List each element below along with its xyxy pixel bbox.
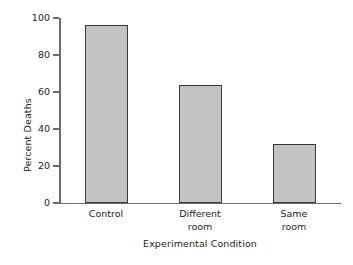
y-axis-tick-label: 20 bbox=[16, 161, 50, 171]
y-axis-tick-label: 80 bbox=[16, 50, 50, 60]
x-axis-title: Experimental Condition bbox=[59, 238, 341, 249]
bar bbox=[273, 144, 316, 203]
y-axis-tick-label: 0 bbox=[16, 198, 50, 208]
x-axis-category-label: Same room bbox=[247, 208, 341, 233]
x-axis-category-label: Different room bbox=[153, 208, 247, 233]
bar-chart: Percent Deaths 020406080100 ControlDiffe… bbox=[0, 0, 353, 265]
y-axis-tick-label: 40 bbox=[16, 124, 50, 134]
plot-area bbox=[59, 18, 341, 203]
y-axis-tick-label: 60 bbox=[16, 87, 50, 97]
bar bbox=[85, 25, 128, 203]
y-axis-tick-label: 100 bbox=[16, 13, 50, 23]
x-axis-category-label: Control bbox=[59, 208, 153, 221]
bar bbox=[179, 85, 222, 203]
